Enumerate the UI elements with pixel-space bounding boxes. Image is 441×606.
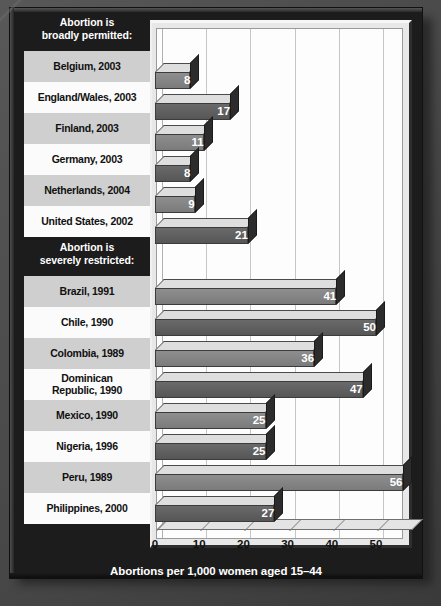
bar: 41	[155, 288, 336, 305]
group-heading-line2: broadly permitted:	[26, 29, 148, 42]
category-label: Netherlands, 2004	[24, 175, 150, 206]
bar-top-face	[155, 372, 372, 381]
bar-value-label: 41	[155, 289, 340, 304]
category-label: Chile, 1990	[24, 307, 150, 338]
category-label: Mexico, 1990	[24, 400, 150, 431]
bar: 17	[155, 103, 230, 120]
axis-tick-labels: 01020304050	[150, 538, 412, 554]
axis-tick-label: 40	[320, 538, 344, 550]
group-heading-line1: Abortion is	[26, 241, 148, 254]
bar: 56	[155, 474, 403, 491]
bar-value-label: 8	[155, 73, 194, 88]
bar-top-face	[155, 403, 275, 412]
bar-top-face	[155, 94, 239, 103]
category-label: Finland, 2003	[24, 113, 150, 144]
bar-value-label: 25	[155, 413, 270, 428]
category-label: England/Wales, 2003	[24, 82, 150, 113]
chart-scene: 01020304050 8171189214150364725255627 Ab…	[0, 0, 441, 606]
category-label: Brazil, 1991	[24, 276, 150, 307]
bar-top-face	[155, 496, 283, 505]
axis-tick-label: 30	[276, 538, 300, 550]
bar: 21	[155, 227, 248, 244]
category-label-line1: Dominican	[52, 373, 122, 385]
category-label: Colombia, 1989	[24, 338, 150, 369]
category-label-line1: Peru, 1989	[62, 472, 112, 484]
category-label-line1: Mexico, 1990	[56, 410, 118, 422]
axis-tick-label: 20	[231, 538, 255, 550]
axis-tick-label: 50	[364, 538, 388, 550]
group-heading: Abortion isbroadly permitted:	[24, 12, 150, 51]
bar-top-face	[155, 218, 257, 227]
bar: 9	[155, 196, 195, 213]
bar-value-label: 9	[155, 197, 199, 212]
bar-value-label: 36	[155, 351, 318, 366]
category-label: Nigeria, 1996	[24, 431, 150, 462]
category-label-line1: Germany, 2003	[52, 154, 123, 166]
category-label-column: Abortion isbroadly permitted:Belgium, 20…	[24, 12, 150, 524]
bar: 8	[155, 165, 190, 182]
axis-caption: Abortions per 1,000 women aged 15–44	[14, 560, 418, 582]
bar: 50	[155, 319, 376, 336]
category-label-line1: Belgium, 2003	[53, 61, 120, 73]
category-label-line1: Colombia, 1989	[50, 348, 124, 360]
category-label-line1: Chile, 1990	[61, 317, 113, 329]
bar-top-face	[155, 279, 345, 288]
category-label: Belgium, 2003	[24, 51, 150, 82]
bar-value-label: 17	[155, 104, 234, 119]
bar-value-label: 50	[155, 320, 380, 335]
bar-top-face	[155, 341, 323, 350]
category-label-line1: Nigeria, 1996	[56, 441, 118, 453]
bar-top-face	[155, 465, 412, 474]
category-label: Germany, 2003	[24, 144, 150, 175]
category-label: Peru, 1989	[24, 462, 150, 493]
bar: 25	[155, 412, 266, 429]
bar-top-face	[155, 434, 275, 443]
bar-value-label: 11	[155, 135, 208, 150]
group-heading-line1: Abortion is	[26, 16, 148, 29]
bar: 25	[155, 443, 266, 460]
group-heading: Abortion isseverely restricted:	[24, 237, 150, 276]
axis-tick-label: 10	[187, 538, 211, 550]
category-label: United States, 2002	[24, 206, 150, 237]
bar-value-label: 8	[155, 166, 194, 181]
category-label-line1: Netherlands, 2004	[44, 185, 130, 197]
category-label-line2: Republic, 1990	[52, 385, 122, 397]
bar: 8	[155, 72, 190, 89]
bar-value-label: 21	[155, 228, 252, 243]
bar: 27	[155, 505, 274, 522]
category-label-line1: England/Wales, 2003	[38, 92, 137, 104]
category-label: Philippines, 2000	[24, 493, 150, 524]
axis-tick-label: 0	[143, 538, 167, 550]
board-left-bevel	[10, 8, 14, 578]
bar-value-label: 27	[155, 506, 278, 521]
group-heading-line2: severely restricted:	[26, 254, 148, 267]
category-label-line1: Philippines, 2000	[47, 503, 128, 515]
bar-series: 8171189214150364725255627	[155, 32, 441, 532]
category-label-line1: Brazil, 1991	[60, 286, 115, 298]
bar-value-label: 47	[155, 382, 367, 397]
category-label-line1: United States, 2002	[41, 216, 133, 228]
bar: 36	[155, 350, 314, 367]
bar-top-face	[155, 310, 385, 319]
bar: 47	[155, 381, 363, 398]
bar-value-label: 25	[155, 444, 270, 459]
category-label: DominicanRepublic, 1990	[24, 369, 150, 400]
category-label-line1: Finland, 2003	[55, 123, 118, 135]
